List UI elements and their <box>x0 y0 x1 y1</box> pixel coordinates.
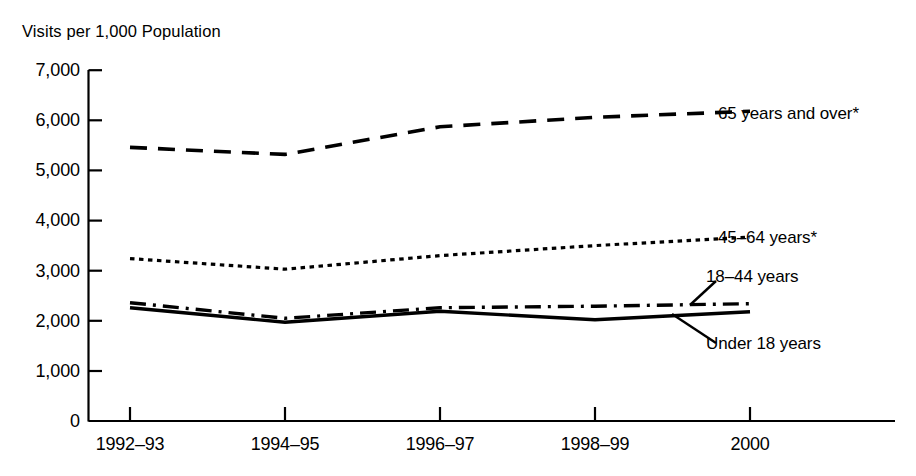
chart-svg <box>0 0 916 476</box>
chart-root: Visits per 1,000 Population 7,000 6,000 … <box>0 0 916 476</box>
y-axis-ticks <box>89 70 103 371</box>
series-line-65-and-over <box>130 111 750 154</box>
series-line-45-64 <box>130 237 750 269</box>
x-axis-ticks <box>130 407 750 421</box>
series-line-under-18 <box>130 308 750 323</box>
leader-lines <box>672 281 716 343</box>
